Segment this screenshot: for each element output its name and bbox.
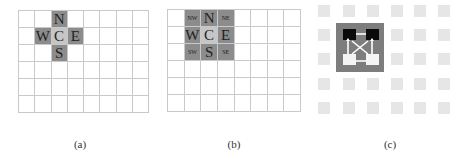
- grid-cell: [84, 96, 100, 113]
- grid-cell: [100, 62, 116, 79]
- arrowhead-left: [346, 38, 350, 41]
- grid-cell: [19, 79, 35, 96]
- cell-n: N: [201, 10, 218, 27]
- grid-cell: [218, 61, 235, 78]
- grid-cell: [117, 45, 133, 62]
- grid-cell: [168, 27, 185, 44]
- grid-cell: [168, 44, 185, 61]
- pe-tile: [318, 29, 330, 41]
- grid-cell: [235, 95, 252, 112]
- grid-cell: [185, 61, 202, 78]
- cell-c: C: [201, 27, 218, 44]
- pe-tile: [391, 5, 403, 17]
- grid-cell: [133, 62, 149, 79]
- grid-cell: [133, 96, 149, 113]
- cell-e: E: [68, 28, 84, 45]
- pe-tile: [318, 102, 330, 114]
- grid-cell: [168, 95, 185, 112]
- pe-tile: [367, 102, 379, 114]
- grid-cell: [117, 96, 133, 113]
- grid-cell: [133, 11, 149, 28]
- cell-se: SE: [218, 44, 235, 61]
- grid-cell: [268, 95, 285, 112]
- cell-c: C: [52, 28, 68, 45]
- grid-cell: [19, 45, 35, 62]
- grid-cell: [117, 62, 133, 79]
- cell-ne: NE: [218, 10, 235, 27]
- grid-panel-b: NWNNEWCESWSSE: [167, 9, 301, 112]
- grid-cell: [235, 44, 252, 61]
- interconnect-arrows: [336, 23, 384, 72]
- cell-n: N: [52, 11, 68, 28]
- pe-tile: [367, 78, 379, 90]
- grid-cell: [68, 96, 84, 113]
- pe-tile: [391, 102, 403, 114]
- caption-c: (c): [384, 138, 396, 150]
- pe-tile: [318, 78, 330, 90]
- grid-cell: [117, 28, 133, 45]
- pe-array-panel-c: [310, 0, 466, 125]
- grid-cell: [100, 28, 116, 45]
- grid-cell: [251, 27, 268, 44]
- pe-tile: [318, 53, 330, 65]
- pe-tile: [391, 53, 403, 65]
- caption-b: (b): [228, 138, 241, 150]
- cell-s: S: [52, 45, 68, 62]
- grid-cell: [235, 27, 252, 44]
- grid-cell: [235, 78, 252, 95]
- grid-cell: [284, 44, 301, 61]
- grid-cell: [268, 27, 285, 44]
- pe-tile: [367, 5, 379, 17]
- grid-cell: [284, 78, 301, 95]
- cell-sw: SW: [185, 44, 202, 61]
- grid-cell: [168, 10, 185, 27]
- grid-cell: [284, 61, 301, 78]
- pe-tile: [414, 102, 426, 114]
- grid-cell: [100, 45, 116, 62]
- grid-cell: [133, 45, 149, 62]
- grid-panel-a: NWCES: [18, 10, 149, 113]
- grid-cell: [201, 78, 218, 95]
- caption-a: (a): [74, 138, 86, 150]
- grid-cell: [133, 79, 149, 96]
- grid-cell: [268, 10, 285, 27]
- grid-cell: [35, 11, 51, 28]
- grid-cell: [19, 96, 35, 113]
- grid-cell: [68, 11, 84, 28]
- pe-tile: [438, 53, 450, 65]
- pe-tile: [343, 102, 355, 114]
- grid-cell: [84, 45, 100, 62]
- grid-cell: [133, 28, 149, 45]
- grid-cell: [284, 27, 301, 44]
- grid-cell: [117, 79, 133, 96]
- grid-cell: [100, 96, 116, 113]
- grid-cell: [251, 44, 268, 61]
- grid-cell: [268, 61, 285, 78]
- grid-cell: [284, 10, 301, 27]
- grid-cell: [185, 78, 202, 95]
- grid-cell: [84, 79, 100, 96]
- grid-cell: [268, 78, 285, 95]
- grid-cell: [84, 28, 100, 45]
- grid-cell: [251, 10, 268, 27]
- grid-cell: [19, 11, 35, 28]
- pe-tile: [414, 5, 426, 17]
- pe-tile: [414, 78, 426, 90]
- cell-w: W: [185, 27, 202, 44]
- grid-cell: [52, 79, 68, 96]
- pe-tile: [438, 78, 450, 90]
- grid-cell: [35, 96, 51, 113]
- pe-tile: [438, 5, 450, 17]
- grid-cell: [68, 79, 84, 96]
- pe-tile: [343, 78, 355, 90]
- grid-cell: [100, 11, 116, 28]
- grid-cell: [35, 79, 51, 96]
- pe-tile: [414, 53, 426, 65]
- grid-cell: [251, 61, 268, 78]
- grid-cell: [235, 61, 252, 78]
- grid-cell: [100, 79, 116, 96]
- cell-e: E: [218, 27, 235, 44]
- pe-tile: [391, 78, 403, 90]
- grid-cell: [35, 45, 51, 62]
- grid-cell: [201, 95, 218, 112]
